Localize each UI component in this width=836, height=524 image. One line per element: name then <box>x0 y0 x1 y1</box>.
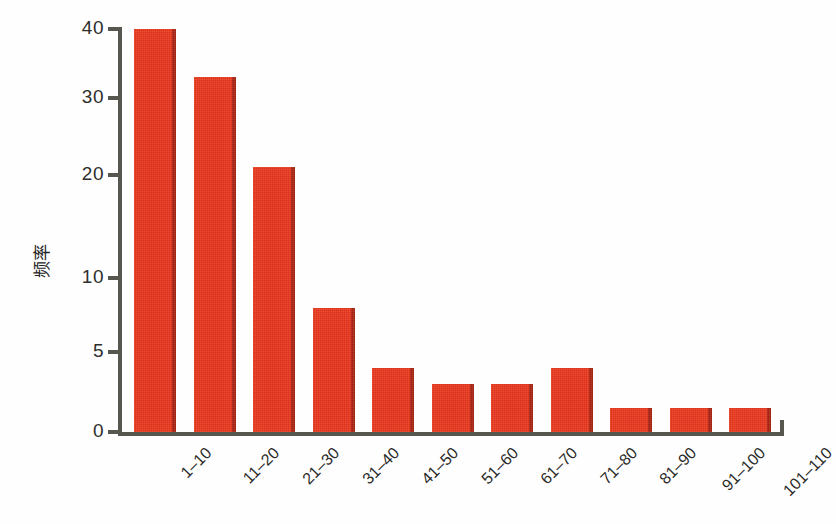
y-tick-label: 0 <box>68 420 104 442</box>
y-tick-mark <box>108 173 122 177</box>
y-tick-mark <box>108 96 122 100</box>
y-tick-mark <box>108 430 122 434</box>
y-tick-label: 10 <box>68 266 104 288</box>
x-tick-label: 1–10 <box>177 444 215 482</box>
bar <box>729 408 771 432</box>
x-tick-label: 91–100 <box>718 444 768 494</box>
y-tick-mark <box>108 276 122 280</box>
y-tick-mark <box>108 27 122 31</box>
bar <box>491 384 533 432</box>
bar <box>551 368 593 432</box>
y-tick-label: 30 <box>68 86 104 108</box>
plot-area <box>122 0 784 436</box>
y-tick-mark <box>108 350 122 354</box>
x-tick-label: 21–30 <box>299 444 343 488</box>
x-axis-end-tick <box>780 420 784 436</box>
y-tick-label: 20 <box>68 163 104 185</box>
y-tick-label: 40 <box>68 17 104 39</box>
y-axis-title: 频率 <box>28 237 53 285</box>
bar <box>670 408 712 432</box>
x-tick-label: 61–70 <box>537 444 581 488</box>
x-tick-label: 31–40 <box>359 444 403 488</box>
bar <box>610 408 652 432</box>
x-tick-label: 81–90 <box>656 444 700 488</box>
x-tick-label: 71–80 <box>597 444 641 488</box>
x-tick-label: 41–50 <box>418 444 462 488</box>
bar <box>194 77 236 432</box>
bar <box>253 167 295 432</box>
x-tick-label: 11–20 <box>239 444 282 487</box>
bar <box>313 308 355 432</box>
bar <box>372 368 414 432</box>
bar <box>134 29 176 432</box>
x-tick-label: 101–110 <box>780 444 836 500</box>
bar <box>432 384 474 432</box>
x-tick-label: 51–60 <box>478 444 522 488</box>
y-axis-tick-labels: 0510203040 <box>60 0 104 524</box>
y-tick-label: 5 <box>68 340 104 362</box>
x-axis-tick-labels: 1–1011–2021–3031–4041–5051–6061–7071–808… <box>122 438 784 524</box>
